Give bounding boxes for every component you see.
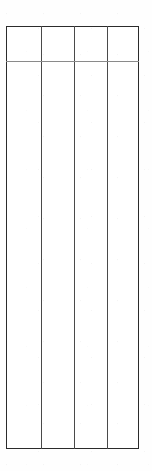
cell-value-r1c1 [7, 62, 41, 67]
table-cell-r1c3[interactable] [75, 62, 108, 449]
column-header-label-3 [75, 27, 107, 32]
column-header-4[interactable] [108, 27, 139, 62]
table-cell-r1c2[interactable] [41, 62, 75, 449]
column-header-label-4 [108, 27, 138, 32]
table-header-row [7, 27, 139, 62]
column-header-1[interactable] [7, 27, 42, 62]
table-cell-r1c1[interactable] [7, 62, 42, 449]
table-body [7, 62, 139, 449]
table-header [7, 27, 139, 62]
column-header-3[interactable] [75, 27, 108, 62]
cell-value-r1c3 [75, 62, 107, 67]
table-row [7, 62, 139, 449]
column-header-label-2 [42, 27, 75, 32]
document-canvas [0, 0, 152, 471]
data-table [6, 26, 139, 449]
table-container [6, 26, 139, 449]
cell-value-r1c2 [42, 62, 75, 67]
column-header-label-1 [7, 27, 41, 32]
table-cell-r1c4[interactable] [108, 62, 139, 449]
cell-value-r1c4 [108, 62, 138, 67]
column-header-2[interactable] [41, 27, 75, 62]
